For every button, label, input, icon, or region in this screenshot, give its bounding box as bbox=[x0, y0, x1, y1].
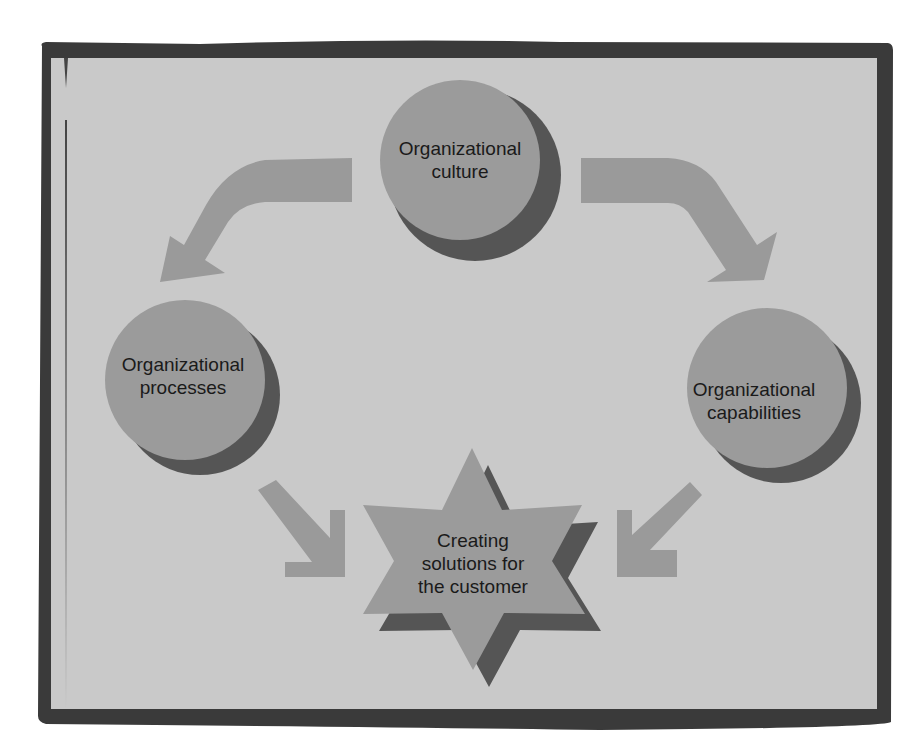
label-capabilities-line2: capabilities bbox=[693, 401, 816, 424]
label-capabilities-line1: Organizational bbox=[693, 378, 816, 401]
label-culture-line1: Organizational bbox=[399, 137, 522, 160]
label-solutions-line3: the customer bbox=[418, 575, 528, 598]
label-capabilities: Organizational capabilities bbox=[693, 378, 816, 424]
label-processes-line1: Organizational bbox=[122, 353, 245, 376]
label-processes: Organizational processes bbox=[122, 353, 245, 399]
label-solutions: Creating solutions for the customer bbox=[418, 529, 528, 598]
label-culture-line2: culture bbox=[399, 160, 522, 183]
label-processes-line2: processes bbox=[122, 376, 245, 399]
label-solutions-line1: Creating bbox=[418, 529, 528, 552]
label-culture: Organizational culture bbox=[399, 137, 522, 183]
label-solutions-line2: solutions for bbox=[418, 552, 528, 575]
